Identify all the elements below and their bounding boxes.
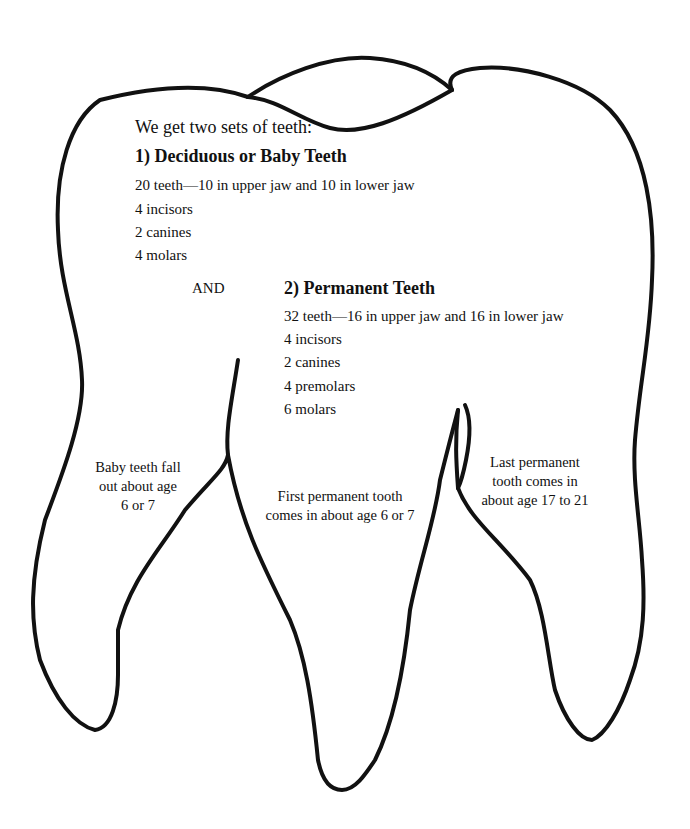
caption-line: tooth comes in (470, 472, 600, 491)
caption-line: about age 17 to 21 (470, 491, 600, 510)
permanent-line: 6 molars (284, 401, 336, 418)
permanent-line: 2 canines (284, 354, 340, 371)
caption-line: 6 or 7 (78, 496, 198, 515)
caption-line: Baby teeth fall (78, 458, 198, 477)
permanent-heading: 2) Permanent Teeth (284, 278, 435, 299)
tooth-outline-icon (0, 0, 690, 829)
permanent-line: 32 teeth—16 in upper jaw and 16 in lower… (284, 308, 564, 325)
left-root-caption: Baby teeth fall out about age 6 or 7 (78, 458, 198, 515)
permanent-line: 4 premolars (284, 378, 355, 395)
deciduous-line: 20 teeth—10 in upper jaw and 10 in lower… (135, 177, 415, 194)
caption-line: Last permanent (470, 453, 600, 472)
caption-line: out about age (78, 477, 198, 496)
caption-line: comes in about age 6 or 7 (250, 506, 430, 525)
deciduous-heading: 1) Deciduous or Baby Teeth (135, 146, 347, 167)
permanent-line: 4 incisors (284, 331, 342, 348)
right-root-caption: Last permanent tooth comes in about age … (470, 453, 600, 510)
deciduous-line: 4 molars (135, 247, 187, 264)
intro-text: We get two sets of teeth: (135, 117, 312, 138)
deciduous-line: 2 canines (135, 224, 191, 241)
caption-line: First permanent tooth (250, 487, 430, 506)
and-connector: AND (192, 280, 225, 297)
middle-root-caption: First permanent tooth comes in about age… (250, 487, 430, 525)
deciduous-line: 4 incisors (135, 201, 193, 218)
